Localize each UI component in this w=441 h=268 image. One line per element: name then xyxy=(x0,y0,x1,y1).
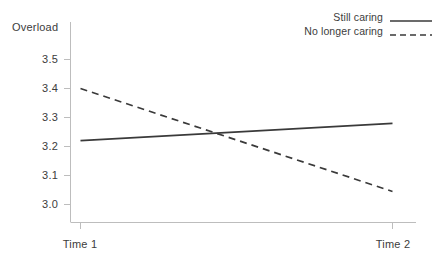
y-tick-label: 3.1 xyxy=(28,169,58,181)
legend: Still caring No longer caring xyxy=(286,10,432,38)
legend-item-still-caring: Still caring xyxy=(286,10,432,23)
legend-swatch-dashed xyxy=(390,26,432,36)
legend-item-no-longer-caring: No longer caring xyxy=(286,24,432,37)
series-line-still-caring xyxy=(81,123,393,140)
y-tick-label: 3.3 xyxy=(28,111,58,123)
legend-label: No longer caring xyxy=(304,25,383,37)
plot-area xyxy=(0,0,441,268)
y-tick-label: 3.5 xyxy=(28,53,58,65)
series-layer xyxy=(81,89,393,192)
y-axis-ticks xyxy=(64,60,71,205)
x-tick-label-time-2: Time 2 xyxy=(376,238,410,250)
y-axis-title: Overload xyxy=(12,21,58,33)
y-tick-label: 3.0 xyxy=(28,198,58,210)
series-line-no-longer-caring xyxy=(81,89,393,192)
y-tick-label: 3.2 xyxy=(28,140,58,152)
x-tick-label-time-1: Time 1 xyxy=(63,238,97,250)
line-chart: Overload 3.5 3.4 3.3 3.2 3.1 3.0 Time 1 … xyxy=(0,0,441,268)
x-axis-ticks xyxy=(81,223,393,230)
legend-swatch-solid xyxy=(390,12,432,22)
legend-label: Still caring xyxy=(333,11,383,23)
y-tick-label: 3.4 xyxy=(28,82,58,94)
